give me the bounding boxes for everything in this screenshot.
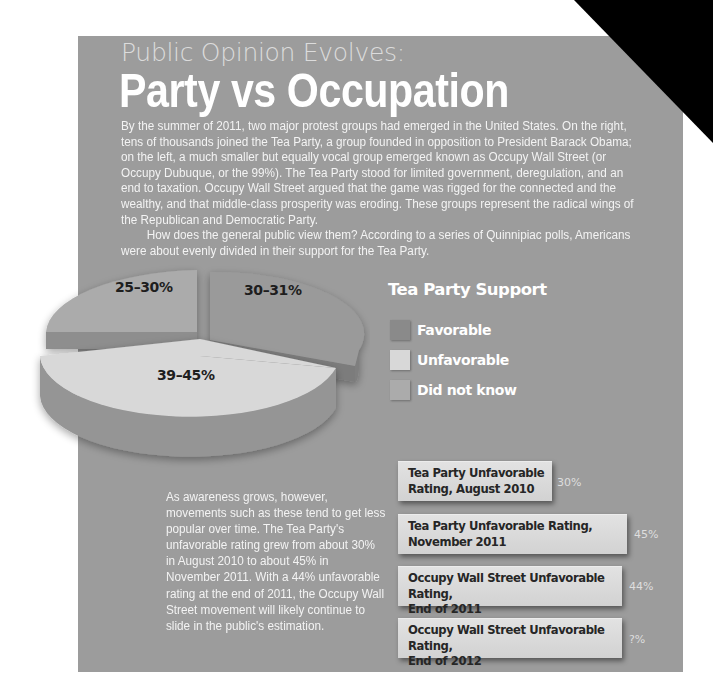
pie-label-did-not-know: 25–30% — [115, 279, 173, 295]
tea-party-support-pie-chart: 25–30% 30–31% 39–45% — [0, 258, 370, 468]
intro-paragraph-2: How does the general public view them? A… — [121, 228, 641, 259]
legend-title: Tea Party Support — [388, 280, 547, 299]
bar-label-line1: Occupy Wall Street Unfavorable Rating, — [408, 623, 605, 653]
bar-label-line2: End of 2011 — [408, 602, 481, 616]
bar-label-line1: Tea Party Unfavorable Rating, — [408, 519, 592, 533]
closing-paragraph: As awareness grows, however, movements s… — [166, 489, 386, 634]
bar-label: Occupy Wall Street Unfavorable Rating, E… — [408, 571, 638, 618]
bar-tea-party-aug-2010: Tea Party Unfavorable Rating, August 201… — [398, 461, 552, 501]
pie-label-unfavorable: 39–45% — [157, 367, 215, 383]
legend-item-unfavorable: Unfavorable — [390, 350, 509, 370]
bar-value-ows-end-2012: ?% — [629, 633, 645, 646]
swatch-did-not-know — [390, 380, 410, 400]
bar-value-tea-party-aug-2010: 30% — [557, 476, 581, 489]
bar-ows-end-2012: Occupy Wall Street Unfavorable Rating, E… — [398, 618, 622, 658]
pie-label-favorable: 30–31% — [244, 282, 302, 298]
legend-item-favorable: Favorable — [390, 320, 491, 340]
bar-label-line2: End of 2012 — [408, 654, 481, 668]
bar-label: Tea Party Unfavorable Rating, November 2… — [408, 519, 638, 550]
page-title: Party vs Occupation — [119, 64, 509, 116]
bar-label: Occupy Wall Street Unfavorable Rating, E… — [408, 623, 638, 670]
bar-value-tea-party-nov-2011: 45% — [634, 528, 658, 541]
legend-label-favorable: Favorable — [417, 322, 491, 338]
bar-ows-end-2011: Occupy Wall Street Unfavorable Rating, E… — [398, 566, 622, 606]
pie-legend: Tea Party Support Favorable Unfavorable … — [390, 280, 547, 299]
bar-label-line2: November 2011 — [408, 535, 506, 549]
swatch-unfavorable — [390, 350, 410, 370]
bar-tea-party-nov-2011: Tea Party Unfavorable Rating, November 2… — [398, 514, 627, 554]
swatch-favorable — [390, 320, 410, 340]
bar-value-ows-end-2011: 44% — [629, 580, 653, 593]
legend-label-did-not-know: Did not know — [417, 382, 517, 398]
bar-label-line1: Occupy Wall Street Unfavorable Rating, — [408, 571, 605, 601]
legend-label-unfavorable: Unfavorable — [417, 352, 509, 368]
intro-paragraph-1: By the summer of 2011, two major protest… — [121, 119, 641, 228]
legend-item-did-not-know: Did not know — [390, 380, 517, 400]
pie-chart-graphic — [0, 258, 370, 468]
bar-label: Tea Party Unfavorable Rating, August 201… — [408, 466, 638, 497]
bar-label-line2: Rating, August 2010 — [408, 482, 534, 496]
intro-text: By the summer of 2011, two major protest… — [121, 119, 641, 259]
bar-label-line1: Tea Party Unfavorable — [408, 466, 544, 480]
